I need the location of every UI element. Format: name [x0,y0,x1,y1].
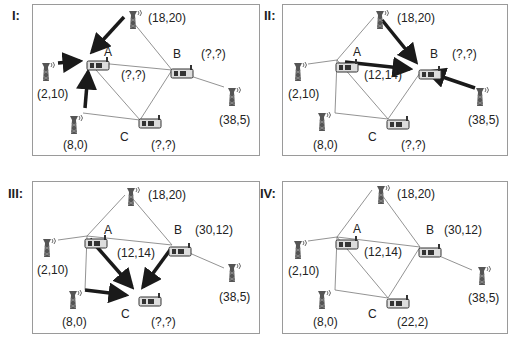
svg-text:A: A [104,45,112,59]
panel-III-graph: (18,20) (2,10) (8,0) (38,5) A (12,14) B … [37,187,250,329]
svg-text:(2,10): (2,10) [288,264,319,278]
tower-icon [228,263,241,282]
svg-text:(30,12): (30,12) [444,223,482,237]
svg-text:(?,?): (?,?) [401,138,426,152]
svg-text:A: A [353,45,361,59]
svg-text:B: B [430,47,438,61]
tower-icon [228,87,241,106]
phone-icon [171,65,193,78]
svg-text:(38,5): (38,5) [468,291,499,305]
svg-text:(12,14): (12,14) [364,245,402,259]
svg-text:B: B [174,223,182,237]
svg-text:(?,?): (?,?) [452,47,477,61]
svg-text:(38,5): (38,5) [219,290,250,304]
phone-icon [387,116,409,129]
svg-text:(38,5): (38,5) [468,113,499,127]
panel-IV-graph: (18,20) (2,10) (8,0) (38,5) A (12,14) B … [288,185,499,329]
svg-text:(?,?): (?,?) [201,47,226,61]
svg-text:C: C [120,130,129,144]
svg-text:(22,2): (22,2) [397,315,428,329]
svg-text:(18,20): (18,20) [397,187,435,201]
svg-text:(8,0): (8,0) [313,138,338,152]
tower-icon [476,87,489,106]
phone-icon [419,244,441,257]
svg-text:(12,14): (12,14) [364,68,402,82]
svg-text:(8,0): (8,0) [313,315,338,329]
tower-icon [294,62,307,81]
svg-text:A: A [353,222,361,236]
svg-text:(?,?): (?,?) [151,315,176,329]
svg-text:(2,10): (2,10) [288,87,319,101]
svg-text:C: C [368,307,377,321]
svg-text:C: C [121,307,130,321]
tower-icon [43,238,56,257]
svg-text:(12,14): (12,14) [117,246,155,260]
tower-icon [127,187,140,206]
phone-icon [387,295,409,308]
svg-text:B: B [173,47,181,61]
svg-text:(18,20): (18,20) [397,11,435,25]
svg-text:B: B [426,223,434,237]
svg-text:(2,10): (2,10) [37,263,68,277]
tower-icon [294,240,307,259]
svg-text:(8,0): (8,0) [62,315,87,329]
panel-I-graph: (18,20) (2,10) (8,0) (38,5) A (?,?) B (?… [37,10,250,152]
tower-icon [70,115,83,134]
tower-icon [129,10,142,29]
diagram-canvas: (18,20) (2,10) (8,0) (38,5) A (?,?) B (?… [0,0,515,340]
svg-text:(8,0): (8,0) [63,138,88,152]
svg-text:(18,20): (18,20) [148,11,186,25]
svg-text:C: C [368,130,377,144]
svg-text:(?,?): (?,?) [121,68,146,82]
svg-text:(38,5): (38,5) [219,113,250,127]
svg-text:(2,10): (2,10) [37,87,68,101]
tower-icon [377,185,390,204]
phone-icon [139,293,161,306]
phone-icon [419,66,441,79]
phone-icon [169,243,191,256]
tower-icon [69,290,82,309]
svg-text:A: A [104,223,112,237]
tower-icon [318,112,331,131]
svg-text:(30,12): (30,12) [195,223,233,237]
panel-II-graph: (18,20) (2,10) (8,0) (38,5) A (12,14) B … [288,10,499,152]
tower-icon [478,266,491,285]
tower-icon [318,290,331,309]
svg-text:(?,?): (?,?) [151,138,176,152]
svg-text:(18,20): (18,20) [148,188,186,202]
tower-icon [42,62,55,81]
